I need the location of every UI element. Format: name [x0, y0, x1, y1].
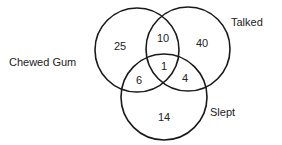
region-gum-slept: 6	[136, 74, 142, 86]
region-talked-only: 40	[196, 37, 208, 49]
label-talked: Talked	[231, 16, 263, 28]
region-gum-only: 25	[114, 40, 126, 52]
label-chewed-gum: Chewed Gum	[9, 56, 76, 68]
label-slept: Slept	[210, 106, 235, 118]
region-slept-only: 14	[158, 111, 170, 123]
region-all-three: 1	[161, 60, 167, 72]
region-talked-slept: 4	[182, 72, 188, 84]
venn-diagram: Chewed Gum Talked Slept 25 40 14 10 6 4 …	[0, 0, 282, 145]
region-gum-talked: 10	[157, 32, 169, 44]
